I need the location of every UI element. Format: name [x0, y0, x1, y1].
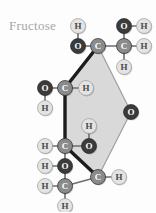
atom-circle — [91, 170, 106, 185]
atom-circle — [58, 179, 73, 194]
atom-h-h-bottom-o-left: H — [38, 159, 54, 175]
atom-circle — [58, 159, 73, 174]
atom-circle — [117, 60, 132, 75]
atom-h-h-ring-bottom-right: H — [112, 170, 128, 186]
atom-circle — [38, 179, 53, 194]
atom-circle — [38, 159, 53, 174]
atom-h-h-left-upper-below: H — [38, 101, 54, 117]
atom-h-h-bottom-below: H — [58, 199, 74, 213]
atom-circle — [38, 101, 53, 116]
atom-circle — [38, 81, 53, 96]
atom-c-c-bottom: C — [58, 179, 74, 195]
atom-circle — [58, 139, 73, 154]
atom-circle — [58, 81, 73, 96]
atom-circle — [117, 19, 132, 34]
atom-circle — [71, 19, 86, 34]
atom-h-h-top-right-side: H — [137, 39, 153, 55]
atom-c-c-top-right: C — [117, 39, 133, 55]
atom-h-h-top-right-o: H — [137, 19, 153, 35]
atom-circle — [79, 81, 94, 96]
atom-circle — [124, 105, 139, 120]
atom-h-h-bottom-left: H — [38, 179, 54, 195]
atom-circle — [137, 39, 152, 54]
atom-circle — [38, 139, 53, 154]
atom-circle — [91, 39, 106, 54]
atom-o-o-left-upper: O — [38, 81, 54, 97]
molecule-diagram: HOCCOHHHOCHHHHCOOHOHCCHH — [0, 0, 156, 212]
atom-c-c-ring-bottom: C — [91, 170, 107, 186]
atom-o-o-top-right: O — [117, 19, 133, 35]
atom-h-h-top-right-below: H — [117, 60, 133, 76]
atom-o-o-top-left: O — [71, 39, 87, 55]
atom-circle — [117, 39, 132, 54]
atom-h-h-ring-lower-left: H — [38, 139, 54, 155]
atom-circle — [58, 199, 73, 213]
atom-o-o-bottom-upper: O — [58, 159, 74, 175]
atom-circle — [82, 119, 97, 134]
atom-circle — [137, 19, 152, 34]
fructose-figure: Fructose HOCCOHHHOCHHHHCOOHOHCCHH — [0, 0, 156, 212]
atom-circle — [82, 139, 97, 154]
atom-h-h-top-left: H — [71, 19, 87, 35]
atom-circle — [71, 39, 86, 54]
atom-circle — [112, 170, 127, 185]
